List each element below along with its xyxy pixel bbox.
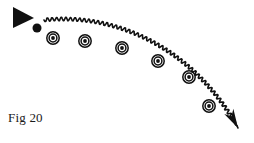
figure-container: Fig 20 [0, 0, 254, 143]
bullseye-target [152, 55, 164, 67]
bullseye-target [183, 71, 195, 83]
bullseye-target [47, 32, 59, 44]
bullseye-target [116, 42, 128, 54]
dot-marker [33, 24, 42, 33]
bullseye-target [203, 100, 215, 112]
figure-caption: Fig 20 [8, 110, 43, 126]
bullseye-target [79, 35, 91, 47]
